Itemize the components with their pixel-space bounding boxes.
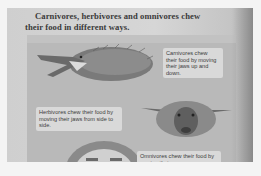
heading-line-1: Carnivores, herbivores and omnivores che… (25, 11, 235, 22)
page-edge-shadow (231, 8, 253, 162)
herbivores-caption: Herbivores chew their food by moving the… (36, 107, 122, 131)
heading-line-2: their food in different ways. (25, 22, 130, 32)
carnivores-caption: Carnivores chew their food by moving the… (163, 48, 223, 78)
illustration-panel: Carnivores chew their food by moving the… (27, 35, 236, 162)
herbivore-illustration (139, 95, 234, 140)
carnivore-illustration (33, 41, 158, 86)
omnivore-illustration (59, 139, 149, 162)
page-heading: Carnivores, herbivores and omnivores che… (25, 11, 235, 32)
textbook-page: Carnivores, herbivores and omnivores che… (7, 8, 253, 162)
omnivores-caption: Omnivores chew their food by moving thei… (137, 151, 221, 162)
